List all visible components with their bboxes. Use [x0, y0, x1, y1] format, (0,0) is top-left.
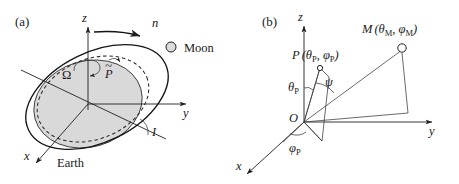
x-axis-label-a: x [23, 149, 30, 163]
projection-line-M [402, 53, 408, 113]
guide-line-O-azimuth [283, 122, 304, 142]
point-P-marker [317, 65, 322, 70]
point-M-marker [398, 44, 406, 52]
line-O-to-P [304, 68, 320, 122]
z-axis-label-a: z [81, 11, 87, 25]
y-axis-label-a: y [181, 106, 189, 120]
perigee-tilde: ~ [105, 59, 112, 73]
figure-canvas: (a) z y x n Moon [0, 0, 459, 184]
horizontal-base-line [304, 113, 408, 122]
perigee-precession-label: P ~ [104, 59, 113, 81]
inclination-angle: I [140, 119, 157, 139]
moon-label: Moon [184, 41, 215, 55]
point-M-label: M(θM, φM) [361, 22, 417, 38]
point-P-label: P(θP, φP) [291, 48, 339, 64]
angle-arc-psi: ψ [316, 75, 334, 93]
guide-line-O-P-foot [304, 122, 322, 141]
panel-a-label: (a) [15, 14, 29, 29]
angle-arc-phi-P: φP [289, 132, 306, 157]
y-axis-label-b: y [427, 124, 435, 138]
x-axis-label-b: x [235, 159, 242, 173]
theta-P-angle-label: θP [288, 80, 299, 96]
phi-P-angle-label: φP [289, 141, 301, 157]
panel-b: (b) z y x θP [235, 10, 435, 174]
psi-angle-label: ψ [325, 75, 333, 89]
orbit-direction-arrow [94, 32, 140, 37]
origin-label: O [289, 111, 298, 125]
panel-b-label: (b) [262, 14, 277, 29]
z-axis-b: z [297, 10, 304, 122]
inclination-label: I [151, 125, 157, 139]
panel-a: (a) z y x n Moon [9, 11, 215, 171]
moon-marker [166, 42, 176, 52]
earth-label: Earth [57, 156, 85, 170]
z-axis-label-b: z [297, 10, 303, 24]
angle-arc-theta-P: θP [288, 80, 313, 96]
node-regression-label: Ω [62, 68, 71, 82]
mean-motion-label: n [152, 16, 158, 30]
